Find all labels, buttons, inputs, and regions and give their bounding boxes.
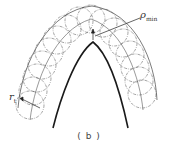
rho-subscript: min — [146, 15, 157, 22]
r-subscript: t — [14, 97, 16, 104]
figure-caption: ( b ) — [0, 131, 178, 141]
cam-profile-diagram — [0, 0, 178, 149]
cam-profile — [53, 42, 128, 128]
pitch-curve — [30, 19, 143, 120]
outer-envelope — [18, 6, 157, 108]
rho-min-label: ρmin — [140, 10, 157, 22]
rt-label: rt — [9, 92, 16, 104]
rt-leader — [20, 97, 40, 108]
roller-circles — [16, 5, 156, 119]
